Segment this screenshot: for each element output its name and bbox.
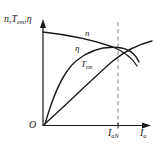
y-axis bbox=[40, 19, 46, 126]
x-label-subscript: a bbox=[143, 132, 146, 139]
x-axis bbox=[43, 123, 151, 129]
origin-label: O bbox=[29, 120, 36, 130]
y-label-efficiency-symbol: η bbox=[27, 13, 32, 24]
y-label-torque-subscript: em bbox=[17, 18, 24, 25]
curve-label-speed: n bbox=[85, 29, 90, 38]
curve-efficiency-eta bbox=[45, 47, 139, 124]
curve-label-efficiency: η bbox=[75, 44, 79, 53]
rated-tick-subscript: aN bbox=[111, 132, 118, 139]
x-axis-label: Ia bbox=[140, 128, 146, 138]
curve-label-torque-subscript: em bbox=[86, 64, 93, 70]
dc-motor-characteristic-figure: n,Tem,η Ia IaN O n η Tem bbox=[0, 0, 161, 148]
curve-label-torque: Tem bbox=[81, 60, 93, 69]
rated-current-tick-label: IaN bbox=[108, 128, 119, 138]
y-axis-label: n,Tem,η bbox=[4, 14, 32, 24]
